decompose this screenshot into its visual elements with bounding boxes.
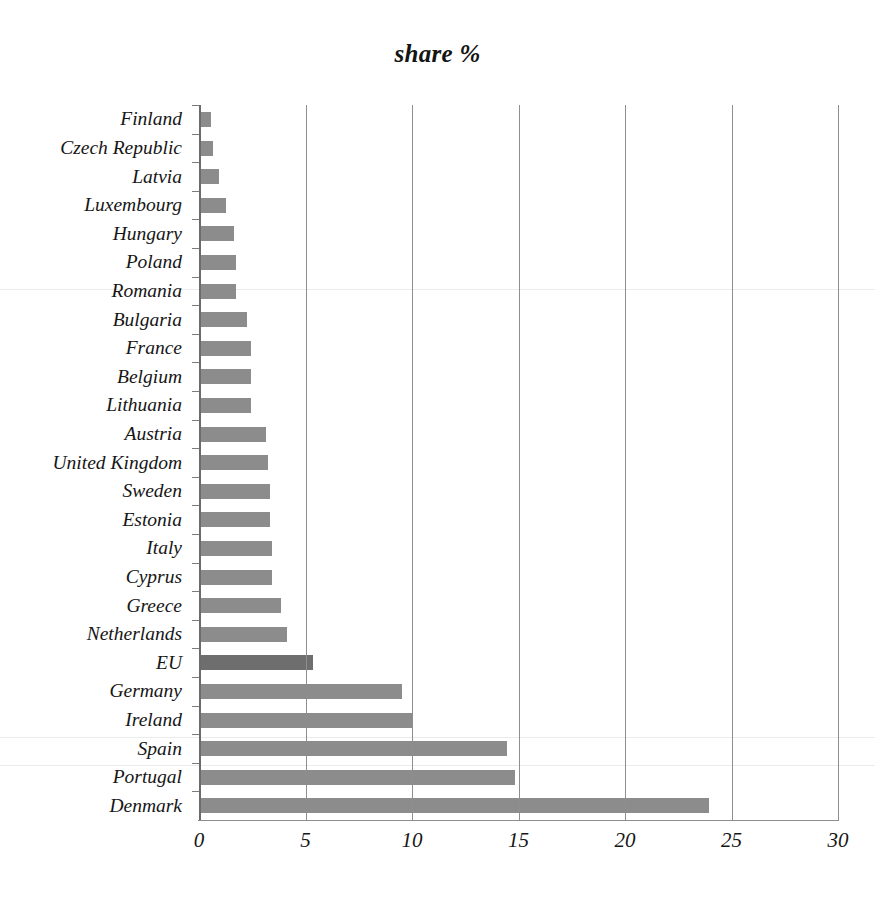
bar-france xyxy=(200,341,251,356)
category-label-luxembourg: Luxembourg xyxy=(0,194,182,216)
category-tick-mark xyxy=(192,162,199,163)
category-label-france: France xyxy=(0,337,182,359)
category-label-portugal: Portugal xyxy=(0,766,182,788)
category-tick-mark xyxy=(192,420,199,421)
category-label-estonia: Estonia xyxy=(0,509,182,531)
x-tick-label-20: 20 xyxy=(595,828,655,853)
category-label-czech-republic: Czech Republic xyxy=(0,137,182,159)
value-axis-baseline xyxy=(198,820,839,821)
category-tick-mark xyxy=(192,648,199,649)
category-tick-mark xyxy=(192,191,199,192)
category-tick-mark xyxy=(192,677,199,678)
category-label-spain: Spain xyxy=(0,738,182,760)
bar-belgium xyxy=(200,369,251,384)
category-tick-mark xyxy=(192,477,199,478)
bar-austria xyxy=(200,427,266,442)
plot-area xyxy=(199,105,838,820)
category-label-poland: Poland xyxy=(0,251,182,273)
category-tick-mark xyxy=(192,505,199,506)
bar-ireland xyxy=(200,713,413,728)
bar-germany xyxy=(200,684,402,699)
category-tick-mark xyxy=(192,391,199,392)
bar-finland xyxy=(200,112,211,127)
category-label-bulgaria: Bulgaria xyxy=(0,309,182,331)
bar-lithuania xyxy=(200,398,251,413)
category-label-ireland: Ireland xyxy=(0,709,182,731)
bar-czech-republic xyxy=(200,141,213,156)
category-label-austria: Austria xyxy=(0,423,182,445)
bar-italy xyxy=(200,541,272,556)
bar-romania xyxy=(200,284,236,299)
x-tick-label-30: 30 xyxy=(808,828,868,853)
category-label-cyprus: Cyprus xyxy=(0,566,182,588)
chart-figure: share % FinlandCzech RepublicLatviaLuxem… xyxy=(0,0,875,906)
category-label-united-kingdom: United Kingdom xyxy=(0,452,182,474)
bar-hungary xyxy=(200,226,234,241)
category-tick-mark xyxy=(192,706,199,707)
x-tick-label-5: 5 xyxy=(276,828,336,853)
gridline-5 xyxy=(306,105,307,820)
category-label-finland: Finland xyxy=(0,108,182,130)
category-label-belgium: Belgium xyxy=(0,366,182,388)
category-tick-mark xyxy=(192,134,199,135)
category-label-denmark: Denmark xyxy=(0,795,182,817)
category-tick-mark xyxy=(192,362,199,363)
x-tick-label-0: 0 xyxy=(169,828,229,853)
bar-eu xyxy=(200,655,313,670)
category-tick-mark xyxy=(192,305,199,306)
category-tick-mark xyxy=(192,105,199,106)
category-tick-mark xyxy=(192,534,199,535)
category-label-hungary: Hungary xyxy=(0,223,182,245)
category-label-latvia: Latvia xyxy=(0,166,182,188)
bar-united-kingdom xyxy=(200,455,268,470)
category-tick-mark xyxy=(192,620,199,621)
category-label-greece: Greece xyxy=(0,595,182,617)
category-tick-mark xyxy=(192,277,199,278)
x-tick-label-15: 15 xyxy=(489,828,549,853)
category-label-eu: EU xyxy=(0,652,182,674)
gridline-20 xyxy=(625,105,626,820)
bar-bulgaria xyxy=(200,312,247,327)
bar-netherlands xyxy=(200,627,287,642)
bar-denmark xyxy=(200,798,709,813)
category-tick-mark xyxy=(192,563,199,564)
bar-portugal xyxy=(200,770,515,785)
category-tick-mark xyxy=(192,219,199,220)
bar-poland xyxy=(200,255,236,270)
bar-cyprus xyxy=(200,570,272,585)
category-tick-mark xyxy=(192,248,199,249)
category-tick-mark xyxy=(192,734,199,735)
category-tick-mark xyxy=(192,448,199,449)
value-axis-tick-labels: 051015202530 xyxy=(199,828,838,868)
x-tick-label-10: 10 xyxy=(382,828,442,853)
bar-latvia xyxy=(200,169,219,184)
gridline-25 xyxy=(732,105,733,820)
bar-estonia xyxy=(200,512,270,527)
bar-sweden xyxy=(200,484,270,499)
category-tick-mark xyxy=(192,591,199,592)
gridline-30 xyxy=(838,105,839,820)
chart-title: share % xyxy=(0,40,875,68)
category-label-italy: Italy xyxy=(0,537,182,559)
x-tick-label-25: 25 xyxy=(702,828,762,853)
category-label-lithuania: Lithuania xyxy=(0,394,182,416)
category-tick-mark xyxy=(192,334,199,335)
bar-greece xyxy=(200,598,281,613)
bar-luxembourg xyxy=(200,198,226,213)
category-label-sweden: Sweden xyxy=(0,480,182,502)
category-axis-labels: FinlandCzech RepublicLatviaLuxembourgHun… xyxy=(0,105,192,820)
category-label-germany: Germany xyxy=(0,680,182,702)
gridline-15 xyxy=(519,105,520,820)
category-tick-mark xyxy=(192,763,199,764)
category-label-romania: Romania xyxy=(0,280,182,302)
category-label-netherlands: Netherlands xyxy=(0,623,182,645)
value-axis-line xyxy=(199,105,201,820)
bar-spain xyxy=(200,741,507,756)
category-tick-mark xyxy=(192,791,199,792)
gridline-10 xyxy=(412,105,413,820)
